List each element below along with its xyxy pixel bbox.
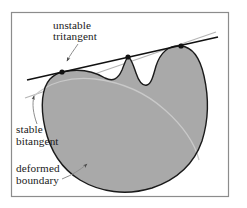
tritangent-diagram: unstable tritangent stable bitangent def… (0, 0, 247, 208)
stable-bitangent-label-line1: stable (16, 123, 43, 135)
deformed-boundary-label-line2: boundary (16, 174, 59, 186)
unstable-tritangent-label-line2: tritangent (53, 30, 98, 42)
figure-container: unstable tritangent stable bitangent def… (0, 0, 247, 208)
stable-bitangent-label-line2: bitangent (16, 135, 59, 147)
right-tangent-point (178, 43, 183, 48)
left-tangent-point (59, 69, 64, 74)
deformed-boundary-label-line1: deformed (16, 162, 60, 174)
middle-tangent-point (125, 54, 130, 59)
